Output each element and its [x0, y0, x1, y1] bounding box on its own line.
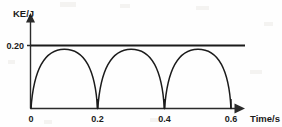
ke-arch-1: [31, 49, 98, 108]
x-tick-label-06: 0.6: [225, 114, 238, 124]
scan-noise-decoration: [8, 2, 273, 124]
ke-arch-2: [98, 49, 165, 108]
kinetic-energy-time-graph: KE/J Time/s 0.20 0 0.2 0.4 0.6: [0, 0, 282, 127]
y-axis-label: KE/J: [13, 8, 34, 19]
ke-arch-3: [165, 49, 231, 108]
x-tick-label-0: 0: [28, 114, 33, 124]
x-tick-label-02: 0.2: [91, 114, 104, 124]
x-tick-label-04: 0.4: [158, 114, 171, 124]
y-tick-label-020: 0.20: [6, 41, 24, 51]
x-axis-label: Time/s: [250, 113, 280, 124]
arrow-right-icon: [235, 104, 246, 114]
chart-plot-area: KE/J Time/s 0.20 0 0.2 0.4 0.6: [0, 0, 282, 127]
